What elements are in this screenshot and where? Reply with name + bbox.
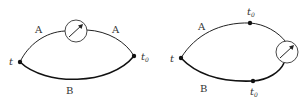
node-t (18, 60, 22, 64)
label-t0-lower: t0 (250, 86, 258, 98)
label-a-right: A (111, 24, 120, 35)
label-b: B (200, 83, 207, 94)
clock-meter-icon (276, 41, 298, 63)
label-a: A (197, 21, 206, 32)
node-t0-lower (251, 79, 255, 83)
node-t0 (132, 54, 136, 58)
node-t (179, 56, 183, 60)
path-a-right-segment (87, 30, 134, 56)
twin-paths-diagram: t t0 A A B t t0 t0 A B (0, 0, 308, 105)
label-t: t (9, 56, 14, 67)
label-t: t (170, 53, 175, 64)
path-a (181, 23, 286, 58)
node-t0-upper (248, 21, 252, 25)
label-b: B (66, 85, 73, 96)
path-b (20, 56, 134, 79)
path-a-left-segment (20, 31, 65, 62)
label-t0-upper: t0 (247, 6, 255, 18)
right-diagram: t t0 t0 A B (170, 6, 298, 98)
left-diagram: t t0 A A B (9, 20, 149, 96)
label-t0: t0 (141, 51, 149, 63)
clock-meter-icon (65, 20, 87, 42)
path-b (181, 58, 284, 81)
label-a-left: A (34, 24, 43, 35)
